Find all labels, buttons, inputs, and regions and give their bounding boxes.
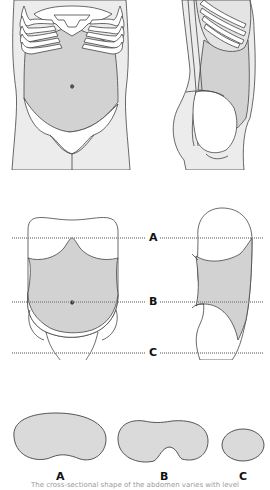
level-outlines: A B C — [0, 200, 270, 360]
cross-sections: A B C — [0, 405, 270, 490]
cross-section-c — [222, 429, 264, 461]
figure-caption: The cross-sectional shape of the abdomen… — [0, 481, 270, 489]
level-label-c: C — [149, 347, 157, 358]
cross-section-shapes — [0, 405, 270, 470]
anatomical-views — [0, 0, 270, 170]
navel — [71, 85, 74, 89]
cross-section-a — [14, 413, 106, 460]
front-outline — [28, 218, 118, 361]
cross-section-b — [118, 421, 208, 462]
side-outline — [192, 208, 252, 360]
level-diagram — [0, 200, 270, 360]
level-label-b: B — [149, 296, 157, 307]
level-label-a: A — [149, 232, 158, 243]
front-torso-view — [12, 0, 130, 170]
torso-illustrations — [0, 0, 270, 170]
side-torso-view — [173, 0, 255, 170]
